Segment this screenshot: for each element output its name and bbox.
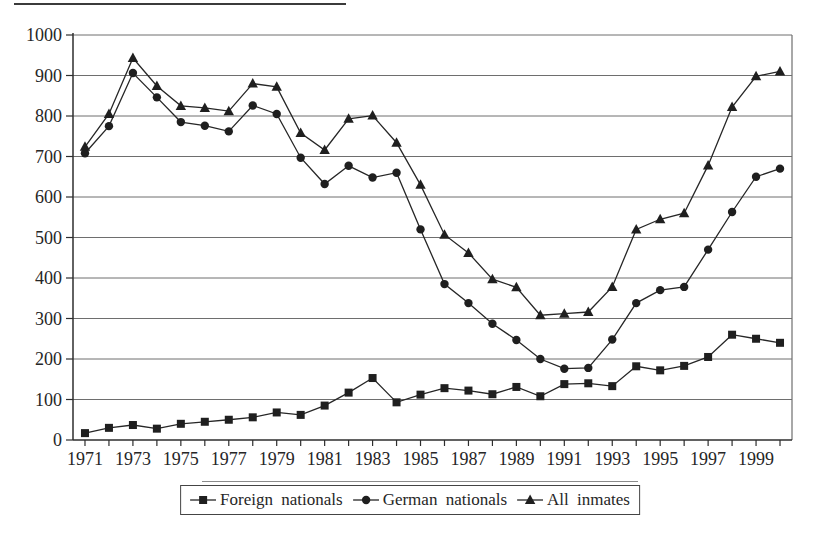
y-tick-label: 500 xyxy=(35,228,62,248)
circle-marker xyxy=(129,69,137,77)
square-legend-icon xyxy=(190,494,216,506)
line-chart: 0100200300400500600700800900100019711973… xyxy=(0,0,820,543)
x-tick-label: 1971 xyxy=(67,449,103,469)
circle-marker xyxy=(488,320,496,328)
x-tick-label: 1983 xyxy=(355,449,391,469)
square-marker xyxy=(728,331,736,339)
circle-legend-icon xyxy=(353,494,379,506)
square-marker xyxy=(608,382,616,390)
square-marker xyxy=(345,389,353,397)
y-tick-label: 900 xyxy=(35,66,62,86)
circle-marker xyxy=(273,110,281,118)
series-foreign-nationals xyxy=(81,331,784,437)
square-marker xyxy=(776,339,784,347)
square-marker xyxy=(488,390,496,398)
circle-marker xyxy=(464,299,472,307)
circle-marker xyxy=(225,127,233,135)
triangle-marker xyxy=(607,281,617,291)
circle-marker xyxy=(752,173,760,181)
triangle-marker xyxy=(415,179,425,189)
y-tick-label: 600 xyxy=(35,187,62,207)
x-tick-label: 1975 xyxy=(163,449,199,469)
circle-marker xyxy=(416,225,424,233)
x-tick-label: 1993 xyxy=(594,449,630,469)
square-marker xyxy=(297,411,305,419)
y-axis-ticks-labels: 01002003004005006007008009001000 xyxy=(26,25,73,450)
triangle-marker xyxy=(631,224,641,234)
triangle-marker xyxy=(176,100,186,110)
series-german-nationals-line xyxy=(85,73,780,369)
square-marker xyxy=(153,425,161,433)
circle-marker xyxy=(608,335,616,343)
x-tick-label: 1991 xyxy=(546,449,582,469)
x-tick-label: 1995 xyxy=(642,449,678,469)
legend-entry-all-inmates: All inmates xyxy=(517,490,630,510)
circle-marker xyxy=(320,180,328,188)
legend-label: German nationals xyxy=(383,490,507,510)
x-tick-label: 1997 xyxy=(690,449,726,469)
chart-legend: Foreign nationalsGerman nationalsAll inm… xyxy=(180,485,640,515)
square-marker xyxy=(536,392,544,400)
circle-marker xyxy=(201,122,209,130)
square-marker xyxy=(273,408,281,416)
circle-marker xyxy=(177,118,185,126)
square-marker xyxy=(393,398,401,406)
circle-marker xyxy=(344,162,352,170)
circle-marker xyxy=(105,122,113,130)
series-all-inmates-line xyxy=(85,58,780,315)
x-tick-label: 1985 xyxy=(403,449,439,469)
x-axis-ticks-labels: 1971197319751977197919811983198519871989… xyxy=(67,440,780,469)
triangle-marker xyxy=(367,110,377,120)
chart-page: 0100200300400500600700800900100019711973… xyxy=(0,0,820,543)
y-tick-label: 0 xyxy=(53,430,62,450)
x-tick-label: 1981 xyxy=(307,449,343,469)
circle-marker xyxy=(560,365,568,373)
triangle-marker xyxy=(463,247,473,257)
square-marker xyxy=(656,366,664,374)
x-tick-label: 1979 xyxy=(259,449,295,469)
square-marker xyxy=(321,402,329,410)
square-marker xyxy=(680,362,688,370)
square-marker xyxy=(369,374,377,382)
square-marker xyxy=(177,420,185,428)
x-tick-label: 1989 xyxy=(498,449,534,469)
series-german-nationals xyxy=(81,69,784,373)
square-marker xyxy=(417,391,425,399)
triangle-legend-icon xyxy=(517,494,543,506)
triangle-marker xyxy=(128,53,138,63)
square-marker xyxy=(249,413,257,421)
triangle-marker xyxy=(295,128,305,137)
square-marker xyxy=(440,384,448,392)
circle-marker xyxy=(153,93,161,101)
x-tick-label: 1999 xyxy=(738,449,774,469)
y-tick-label: 400 xyxy=(35,268,62,288)
y-tick-label: 1000 xyxy=(26,25,62,45)
circle-marker xyxy=(512,336,520,344)
triangle-marker xyxy=(104,108,114,118)
circle-marker xyxy=(368,173,376,181)
square-marker xyxy=(560,380,568,388)
y-tick-label: 100 xyxy=(35,390,62,410)
legend-entry-german-nationals: German nationals xyxy=(353,490,507,510)
x-tick-label: 1973 xyxy=(115,449,151,469)
circle-marker xyxy=(584,364,592,372)
circle-marker xyxy=(536,355,544,363)
circle-marker xyxy=(392,169,400,177)
square-marker xyxy=(512,383,520,391)
square-marker xyxy=(464,387,472,395)
y-tick-label: 300 xyxy=(35,309,62,329)
legend-entry-foreign-nationals: Foreign nationals xyxy=(190,490,343,510)
triangle-marker xyxy=(775,66,785,76)
square-marker xyxy=(105,424,113,432)
square-marker xyxy=(129,421,137,429)
square-marker xyxy=(201,418,209,426)
x-tick-label: 1987 xyxy=(450,449,486,469)
circle-marker xyxy=(776,164,784,172)
legend-label: All inmates xyxy=(547,490,630,510)
series-all-inmates xyxy=(80,53,785,320)
x-tick-label: 1977 xyxy=(211,449,247,469)
circle-marker xyxy=(704,245,712,253)
square-marker xyxy=(704,353,712,361)
triangle-marker xyxy=(248,78,258,88)
series-foreign-nationals-line xyxy=(85,335,780,433)
